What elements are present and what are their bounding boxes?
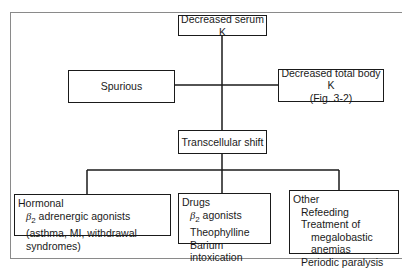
node-transcellular-shift: Transcellular shift — [178, 130, 267, 154]
node-label: Decreased serum K — [179, 13, 266, 38]
category-item: (asthma, MI, withdrawal syndromes) — [18, 227, 167, 252]
category-item: β2 adrenergic agonists — [18, 210, 167, 228]
category-item: Barium intoxication — [182, 239, 267, 264]
category-title: Drugs — [182, 196, 267, 209]
beta-symbol: β2 — [26, 211, 36, 222]
node-drugs: Drugs β2 agonists Theophylline Barium in… — [178, 193, 271, 244]
beta-symbol: β2 — [190, 210, 200, 221]
category-item: Periodic paralysis — [293, 256, 395, 268]
node-label-line: (Fig. 3-2) — [310, 92, 353, 105]
category-item: megalobastic anemias — [293, 231, 395, 256]
category-item: β2 agonists — [182, 209, 267, 227]
node-other: Other Refeeding Treatment of megalobasti… — [289, 190, 399, 254]
category-title: Hormonal — [18, 197, 167, 210]
node-decreased-total-body-k: Decreased total body K (Fig. 3-2) — [278, 69, 384, 102]
node-hormonal: Hormonal β2 adrenergic agonists (asthma,… — [14, 194, 171, 236]
category-item: Theophylline — [182, 226, 267, 239]
category-item: Treatment of — [293, 218, 395, 231]
node-label-line: Decreased total body K — [279, 67, 383, 92]
node-spurious: Spurious — [68, 70, 175, 103]
node-label: Spurious — [101, 80, 142, 93]
node-label: Transcellular shift — [182, 136, 264, 149]
node-decreased-serum-k: Decreased serum K — [178, 15, 267, 36]
category-title: Other — [293, 193, 395, 206]
category-item: Refeeding — [293, 206, 395, 219]
